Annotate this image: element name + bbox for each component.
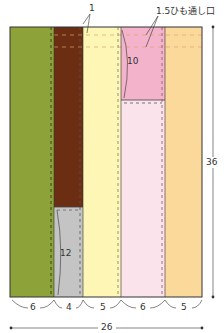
gray-height-label: 12 <box>60 249 71 258</box>
pattern-diagram <box>0 0 224 333</box>
width-label-green: 6 <box>30 303 36 312</box>
total-width-label: 26 <box>101 323 112 332</box>
light-pink-panel <box>121 100 165 297</box>
top-seam-label: 1 <box>89 4 95 13</box>
yellow-panel <box>83 27 121 297</box>
width-label-yellow: 5 <box>100 303 106 312</box>
total-height-label: 36 <box>206 157 217 168</box>
width-label-brown: 4 <box>66 303 72 312</box>
green-panel <box>10 27 54 297</box>
pink-height-label: 10 <box>127 57 138 66</box>
orange-panel <box>165 27 202 297</box>
width-label-orange: 5 <box>181 303 187 312</box>
drawstring-opening-label: 1.5ひも通し口 <box>156 7 215 16</box>
width-label-pink: 6 <box>140 303 146 312</box>
brown-panel <box>54 27 83 207</box>
